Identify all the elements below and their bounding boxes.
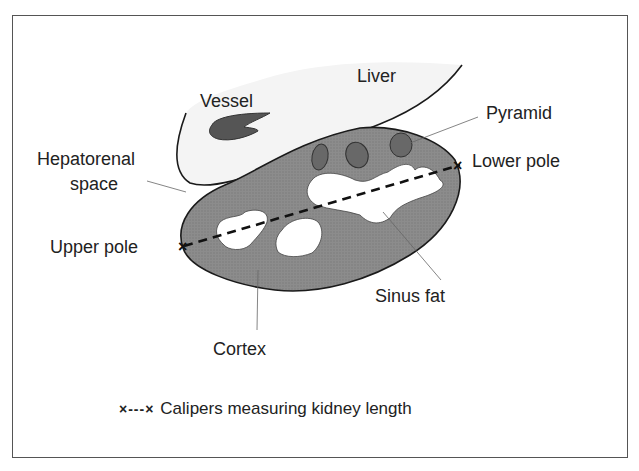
- pyramid-leader: [410, 117, 478, 143]
- hepatorenal-leader: [147, 181, 186, 192]
- label-upper-pole: Upper pole: [50, 238, 138, 256]
- legend-text: Calipers measuring kidney length: [160, 399, 411, 418]
- label-vessel: Vessel: [200, 92, 253, 110]
- label-lower-pole: Lower pole: [472, 152, 560, 170]
- lower-pole-caliper-icon: ×: [453, 157, 462, 174]
- label-hepatorenal-2: space: [70, 175, 118, 193]
- pyramid-shape: [390, 133, 412, 157]
- upper-pole-caliper-icon: ×: [178, 238, 187, 255]
- label-sinus-fat: Sinus fat: [375, 287, 445, 305]
- label-cortex: Cortex: [213, 340, 266, 358]
- legend-caliper-symbol: ×---×: [119, 401, 154, 417]
- label-hepatorenal-1: Hepatorenal: [37, 150, 135, 168]
- label-pyramid: Pyramid: [486, 104, 552, 122]
- label-liver: Liver: [357, 67, 396, 85]
- legend: ×---×Calipers measuring kidney length: [119, 400, 412, 417]
